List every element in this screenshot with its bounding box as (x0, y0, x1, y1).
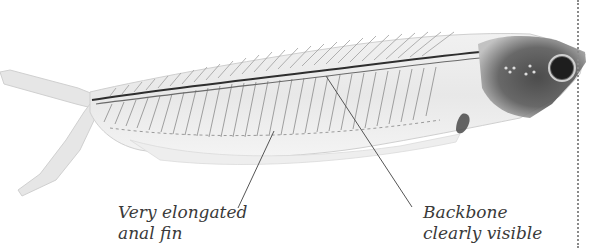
annotation-line: clearly visible (423, 223, 542, 244)
annotation-anal-fin: Very elongated anal fin (118, 202, 247, 244)
annotation-backbone: Backbone clearly visible (423, 202, 542, 244)
annotation-line: anal fin (118, 223, 247, 244)
fish-eye (551, 57, 573, 79)
figure: Very elongated anal fin Backbone clearly… (0, 0, 592, 248)
annotation-line: Very elongated (118, 202, 247, 223)
annotation-line: Backbone (423, 202, 542, 223)
tail-fin (0, 70, 98, 196)
dotted-border (577, 0, 579, 248)
